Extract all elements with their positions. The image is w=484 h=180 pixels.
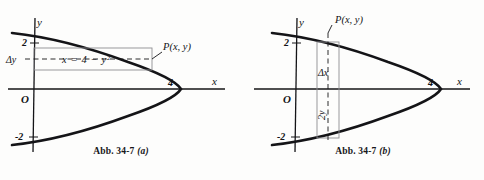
x-axis-label-a: x [211,75,217,87]
delta-y-label-a: Δy [5,54,17,65]
y-axis-label-b: y [298,16,304,28]
equation-label-a: x = 4 − y² [61,54,111,65]
y-axis-line-a [33,18,35,152]
delta-x-label-b: Δx [317,67,329,78]
origin-label-b: O [283,93,291,105]
y-tick-label-positive-a: 2 [21,37,27,48]
y-tick-label-negative-a: -2 [15,131,23,142]
figure-b-canvas: y x O 2 -2 4 Δx 2y P(x, y) [242,0,484,158]
point-label-a: P(x, y) [162,41,191,53]
y-axis-line-b [295,18,297,152]
y-tick-label-positive-b: 2 [283,37,289,48]
y-tick-label-negative-b: -2 [277,131,285,142]
origin-label-a: O [21,93,29,105]
figure-a-canvas: y x O 2 -2 4 Δy x = 4 − y² P(x, y) [0,0,242,158]
figure-caption-part-b: (b) [379,146,391,156]
point-leader-line-a [152,52,162,59]
x-vertex-label-a: 4 [167,77,173,88]
figure-caption-main-b: Abb. 34-7 [335,146,376,156]
figure-caption-a: Abb. 34-7 (a) [0,146,242,156]
x-vertex-label-b: 4 [427,77,433,88]
strip-height-label-b: 2y [316,110,327,120]
figure-caption-part-a: (a) [137,146,149,156]
figure-sheet: y x O 2 -2 4 Δy x = 4 − y² P(x, y) Abb. … [0,0,484,180]
integration-strip-b [317,42,339,138]
point-leader-line-b [328,25,332,33]
figure-panel-a: y x O 2 -2 4 Δy x = 4 − y² P(x, y) Abb. … [0,0,242,180]
point-label-b: P(x, y) [334,14,363,26]
figure-panel-b: y x O 2 -2 4 Δx 2y P(x, y) Abb. 34-7 (b) [242,0,484,180]
figure-caption-main-a: Abb. 34-7 [93,146,134,156]
figure-caption-b: Abb. 34-7 (b) [242,146,484,156]
y-axis-label-a: y [36,16,42,28]
x-axis-label-b: x [456,75,462,87]
